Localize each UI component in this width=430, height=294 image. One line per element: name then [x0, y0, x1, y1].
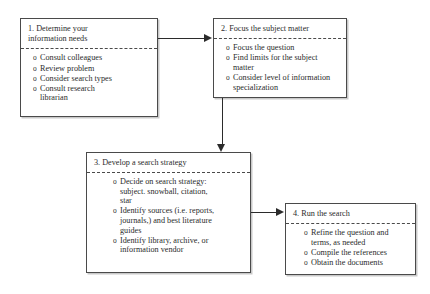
list-item: o Find limits for the subject matter: [226, 53, 341, 72]
connector-line: [158, 38, 205, 39]
bullet-marker-icon: o: [113, 177, 120, 187]
list-item: o Obtain the documents: [304, 258, 410, 268]
list-item: o Decide on search strategy: subject. sn…: [113, 177, 245, 206]
bullet-marker-icon: o: [226, 73, 233, 83]
connector-line: [222, 98, 223, 145]
list-item: o Consult colleagues: [33, 53, 152, 63]
flow-node-3-title: 3. Develop a search strategy: [87, 153, 250, 172]
list-item: o Identify library, archive, or informat…: [113, 236, 245, 255]
bullet-marker-icon: o: [33, 74, 40, 84]
bullet-marker-icon: o: [113, 236, 120, 246]
connector-line: [251, 212, 276, 213]
bullet-marker-icon: o: [113, 206, 120, 216]
arrow-head-right-icon: [276, 208, 284, 216]
list-item: o Compile the references: [304, 248, 410, 258]
flow-node-2[interactable]: 2. Focus the subject matter o Focus the …: [213, 18, 347, 98]
bullet-marker-icon: o: [304, 228, 311, 238]
bullet-marker-icon: o: [304, 258, 311, 268]
flow-node-4[interactable]: 4. Run the search o Refine the question …: [285, 203, 416, 275]
flow-node-2-title: 2. Focus the subject matter: [214, 19, 346, 38]
bullet-marker-icon: o: [33, 64, 40, 74]
flowchart-canvas: 1. Determine your information needs o Co…: [0, 0, 430, 294]
bullet-marker-icon: o: [33, 84, 40, 94]
flow-node-4-body: o Refine the question and terms, as need…: [286, 224, 415, 272]
flow-node-1[interactable]: 1. Determine your information needs o Co…: [20, 18, 158, 117]
bullet-marker-icon: o: [33, 53, 40, 63]
arrow-head-down-icon: [217, 144, 225, 152]
bullet-marker-icon: o: [226, 53, 233, 63]
list-item: o Consider search types: [33, 74, 152, 84]
flow-node-2-body: o Focus the question o Find limits for t…: [214, 39, 346, 96]
list-item: o Consider level of information speciali…: [226, 73, 341, 92]
list-item: o Review problem: [33, 64, 152, 74]
flow-node-3[interactable]: 3. Develop a search strategy o Decide on…: [86, 152, 251, 273]
flow-node-1-body: o Consult colleagues o Review problem o …: [21, 49, 157, 107]
list-item: o Consult research librarian: [33, 84, 152, 103]
bullet-marker-icon: o: [226, 43, 233, 53]
arrow-head-right-icon: [204, 34, 212, 42]
flow-node-3-body: o Decide on search strategy: subject. sn…: [87, 173, 250, 259]
bullet-marker-icon: o: [304, 248, 311, 258]
list-item: o Identify sources (i.e. reports, journa…: [113, 206, 245, 235]
flow-node-1-title: 1. Determine your information needs: [21, 19, 157, 48]
flow-node-4-title: 4. Run the search: [286, 204, 415, 223]
list-item: o Focus the question: [226, 43, 341, 53]
list-item: o Refine the question and terms, as need…: [304, 228, 410, 247]
